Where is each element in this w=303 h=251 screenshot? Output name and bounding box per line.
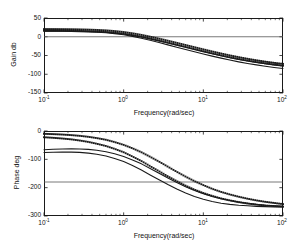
phase-panel: 0 -100 -200 -300 10-1 100 101 102 Phase …	[0, 125, 303, 251]
gain-xtick-3: 102	[272, 96, 292, 103]
phase-xtick-0-mantissa: 10	[38, 219, 45, 226]
phase-xtick-1-exponent: 0	[125, 218, 128, 223]
phase-xtick-2: 101	[193, 219, 213, 226]
gain-ytick-4: -150	[16, 88, 41, 95]
gain-y-axis-label: Gain db	[10, 30, 17, 80]
phase-y-axis-label: Phase deg	[13, 146, 20, 200]
phase-xtick-3-exponent: 2	[284, 218, 287, 223]
gain-xtick-0-mantissa: 10	[38, 96, 45, 103]
gain-panel: 50 0 -50 -100 -150 10-1 100 101 102 Gain…	[0, 0, 303, 125]
gain-xtick-0-exponent: -1	[46, 95, 50, 100]
phase-ytick-2: -200	[16, 183, 41, 190]
phase-x-axis-label: Frequency(rad/sec)	[104, 232, 224, 239]
gain-ytick-1: 0	[16, 33, 41, 40]
gain-xtick-2-exponent: 1	[205, 95, 208, 100]
bode-plot-figure: 50 0 -50 -100 -150 10-1 100 101 102 Gain…	[0, 0, 303, 251]
phase-ytick-0: 0	[16, 127, 41, 134]
gain-curves	[0, 0, 303, 125]
gain-ytick-2: -50	[16, 51, 41, 58]
gain-xtick-0: 10-1	[34, 96, 54, 103]
gain-xtick-3-exponent: 2	[284, 95, 287, 100]
gain-xtick-1-exponent: 0	[125, 95, 128, 100]
phase-xtick-3: 102	[272, 219, 292, 226]
phase-xtick-0-exponent: -1	[46, 218, 50, 223]
gain-x-axis-label: Frequency(rad/sec)	[104, 109, 224, 116]
phase-ytick-3: -300	[16, 211, 41, 218]
gain-xtick-1: 100	[113, 96, 133, 103]
gain-ytick-3: -100	[16, 70, 41, 77]
phase-xtick-0: 10-1	[34, 219, 54, 226]
gain-ytick-0: 50	[16, 14, 41, 21]
phase-xtick-2-exponent: 1	[205, 218, 208, 223]
phase-ytick-1: -100	[16, 155, 41, 162]
gain-xtick-2: 101	[193, 96, 213, 103]
phase-xtick-1: 100	[113, 219, 133, 226]
